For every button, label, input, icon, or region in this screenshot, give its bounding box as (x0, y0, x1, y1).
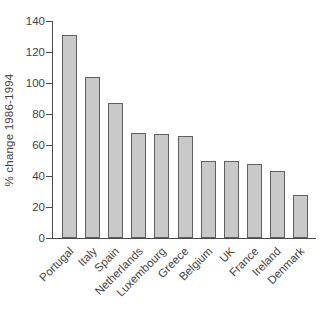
y-tick-label: 60 (14, 139, 45, 152)
bar-spain (108, 103, 123, 238)
bar-netherlands (131, 133, 146, 238)
bar-ireland (270, 171, 285, 238)
y-tick-label: 20 (14, 201, 45, 214)
bar-italy (85, 77, 100, 238)
y-tick-label: 140 (14, 15, 45, 28)
y-axis-line (52, 21, 53, 239)
y-tick-label: 40 (14, 170, 45, 183)
bar-uk (224, 161, 239, 239)
bar-denmark (293, 195, 308, 238)
bar-portugal (62, 35, 77, 238)
y-tick-label: 120 (14, 46, 45, 59)
y-tick-label: 100 (14, 77, 45, 90)
y-tick-label: 80 (14, 108, 45, 121)
bar-france (247, 164, 262, 238)
bar-greece (178, 136, 193, 238)
y-tick-label: 0 (14, 232, 45, 245)
bar-belgium (201, 161, 216, 239)
x-tick-label: Portugal (37, 245, 76, 284)
bar-chart-figure: % change 1986-1994 020406080100120140 Po… (0, 0, 322, 311)
bar-luxembourg (154, 134, 169, 238)
x-axis-line (52, 238, 316, 239)
